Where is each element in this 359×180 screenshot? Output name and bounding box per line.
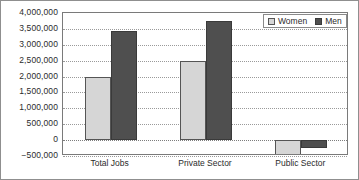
legend-swatch-icon — [315, 18, 322, 25]
x-tick-label: Private Sector — [178, 158, 231, 168]
plot-area — [62, 12, 348, 155]
y-axis: −500,0000500,0001,000,0001,500,0002,000,… — [0, 12, 58, 155]
bar-total-jobs-men — [111, 31, 137, 140]
y-tick-label: 0 — [53, 134, 58, 144]
x-tick-label: Total Jobs — [91, 158, 129, 168]
legend-label: Women — [278, 17, 307, 26]
bar-public-sector-women — [275, 140, 301, 154]
x-tick-label: Public Sector — [275, 158, 325, 168]
y-tick-label: 2,000,000 — [19, 71, 58, 81]
y-tick-label: −500,000 — [22, 150, 59, 160]
y-tick-label: 3,500,000 — [19, 23, 58, 33]
bar-total-jobs-women — [85, 77, 111, 141]
y-tick-label: 500,000 — [27, 118, 58, 128]
legend-entry-women: Women — [268, 17, 307, 26]
y-tick-label: 3,000,000 — [19, 39, 58, 49]
bar-chart-figure: −500,0000500,0001,000,0001,500,0002,000,… — [0, 0, 359, 180]
bar-private-sector-men — [206, 21, 232, 140]
y-tick-label: 1,500,000 — [19, 86, 58, 96]
legend-entry-men: Men — [315, 17, 342, 26]
bar-public-sector-men — [301, 140, 327, 148]
y-tick-label: 2,500,000 — [19, 55, 58, 65]
y-tick-label: 1,000,000 — [19, 102, 58, 112]
gridline — [63, 156, 347, 157]
y-tick-label: 4,000,000 — [19, 7, 58, 17]
legend-swatch-icon — [268, 18, 275, 25]
x-axis: Total JobsPrivate SectorPublic Sector — [62, 158, 348, 174]
bars-layer — [63, 13, 347, 154]
bar-private-sector-women — [180, 61, 206, 140]
legend-label: Men — [325, 17, 342, 26]
chart-legend: WomenMen — [263, 14, 347, 28]
